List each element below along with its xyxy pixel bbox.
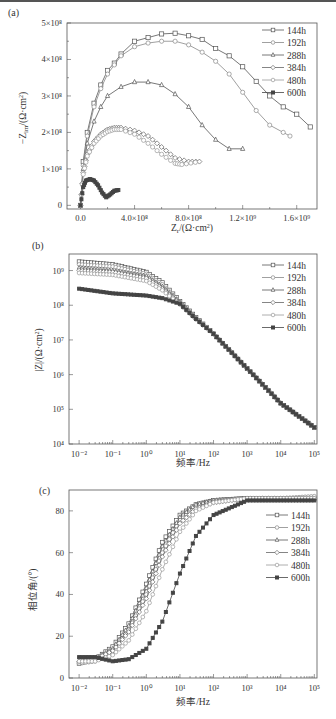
legend-entry: 192h xyxy=(287,273,306,283)
x-axis-label-a: Zr/(Ω·cm2) xyxy=(171,223,213,235)
bode-phase-plot: (c) 020406080 10⁻²10⁻¹10⁰10¹10²10³10⁴10⁵… xyxy=(0,470,336,719)
svg-text:10³: 10³ xyxy=(242,449,254,459)
svg-text:10⁸: 10⁸ xyxy=(53,300,65,310)
nyquist-plot: (a) 01×10⁸2×10⁸3×10⁸4×10⁸5×10⁸ 0.04.0×10… xyxy=(0,0,336,235)
panel-a-nyquist-chart: (a) 01×10⁸2×10⁸3×10⁸4×10⁸5×10⁸ 0.04.0×10… xyxy=(0,0,336,235)
series-144h xyxy=(78,31,312,207)
legend-entry: 384h xyxy=(287,298,306,308)
svg-text:10⁻²: 10⁻² xyxy=(71,449,88,459)
svg-text:8.0×10⁸: 8.0×10⁸ xyxy=(175,213,202,223)
series-192h xyxy=(77,494,316,665)
legend-entry: 288h xyxy=(291,536,310,546)
legend-a: 144h192h288h384h480h600h xyxy=(262,26,306,99)
x-axis-a: 0.04.0×10⁸8.0×10⁸1.2×10⁹1.6×10⁹ xyxy=(75,205,310,223)
series-group-a xyxy=(78,31,312,208)
legend-entry: 600h xyxy=(291,573,310,583)
svg-text:10⁶: 10⁶ xyxy=(53,370,65,380)
x-axis-label-b: 频率/Hz xyxy=(176,457,210,468)
panel-c-bode-phase-chart: (c) 020406080 10⁻²10⁻¹10⁰10¹10²10³10⁴10⁵… xyxy=(0,470,336,719)
svg-text:10⁰: 10⁰ xyxy=(140,683,153,693)
legend-entry: 480h xyxy=(287,76,306,86)
series-600h xyxy=(78,499,316,663)
svg-text:10⁷: 10⁷ xyxy=(53,335,65,345)
svg-text:2×10⁸: 2×10⁸ xyxy=(41,127,62,137)
svg-text:4×10⁸: 4×10⁸ xyxy=(41,54,62,64)
series-288h xyxy=(77,496,316,663)
legend-entry: 480h xyxy=(291,561,310,571)
legend-entry: 600h xyxy=(287,88,306,98)
svg-text:1.2×10⁹: 1.2×10⁹ xyxy=(229,213,256,223)
panel-label-a: (a) xyxy=(8,7,19,19)
svg-text:1.6×10⁹: 1.6×10⁹ xyxy=(283,213,310,223)
panel-b-bode-magnitude-chart: (b) 10⁴10⁵10⁶10⁷10⁸10⁹ 10⁻²10⁻¹10⁰10¹10²… xyxy=(0,235,336,470)
series-192h xyxy=(78,39,292,207)
legend-entry: 192h xyxy=(287,38,306,48)
svg-text:3×10⁸: 3×10⁸ xyxy=(41,91,62,101)
svg-text:0: 0 xyxy=(60,673,64,683)
series-384h xyxy=(77,496,317,664)
svg-text:80: 80 xyxy=(56,506,65,516)
legend-entry: 192h xyxy=(291,523,310,533)
legend-entry: 144h xyxy=(287,261,306,271)
x-axis-c: 10⁻²10⁻¹10⁰10¹10²10³10⁴10⁵ xyxy=(71,674,320,693)
svg-text:10⁴: 10⁴ xyxy=(53,439,65,449)
series-480h xyxy=(78,127,197,207)
legend-entry: 144h xyxy=(291,511,310,521)
svg-text:10⁹: 10⁹ xyxy=(53,266,65,276)
svg-text:10⁻¹: 10⁻¹ xyxy=(105,683,122,693)
svg-text:4.0×10⁸: 4.0×10⁸ xyxy=(121,213,148,223)
y-axis-b: 10⁴10⁵10⁶10⁷10⁸10⁹ xyxy=(53,266,73,449)
svg-text:10⁵: 10⁵ xyxy=(53,404,65,414)
panel-label-c: (c) xyxy=(39,485,50,497)
y-axis-label-b: |Z|/(Ω·cm2) xyxy=(34,328,45,371)
legend-entry: 288h xyxy=(287,51,306,61)
legend-b: 144h192h288h384h480h600h xyxy=(262,261,306,334)
plot-frame-a xyxy=(67,23,317,209)
y-axis-label-c: 相位角/(°) xyxy=(27,569,39,612)
svg-text:0: 0 xyxy=(58,200,62,210)
series-480h xyxy=(77,496,316,663)
legend-entry: 480h xyxy=(287,311,306,321)
svg-text:10⁰: 10⁰ xyxy=(140,449,153,459)
panel-label-b: (b) xyxy=(32,240,44,252)
x-axis-b: 10⁻²10⁻¹10⁰10¹10²10³10⁴10⁵ xyxy=(71,440,320,459)
bode-magnitude-plot: (b) 10⁴10⁵10⁶10⁷10⁸10⁹ 10⁻²10⁻¹10⁰10¹10²… xyxy=(0,235,336,470)
svg-text:60: 60 xyxy=(56,548,65,558)
series-600h xyxy=(79,178,120,207)
svg-text:0.0: 0.0 xyxy=(75,213,86,223)
legend-entry: 384h xyxy=(291,548,310,558)
y-axis-a: 01×10⁸2×10⁸3×10⁸4×10⁸5×10⁸ xyxy=(41,18,71,210)
svg-text:40: 40 xyxy=(56,589,65,599)
svg-text:10⁵: 10⁵ xyxy=(309,449,321,459)
legend-entry: 384h xyxy=(287,63,306,73)
series-600h xyxy=(78,287,316,429)
svg-text:10¹: 10¹ xyxy=(174,683,186,693)
svg-text:20: 20 xyxy=(56,631,65,641)
svg-text:1×10⁸: 1×10⁸ xyxy=(41,164,62,174)
svg-text:10⁻¹: 10⁻¹ xyxy=(105,449,122,459)
svg-text:10⁻²: 10⁻² xyxy=(71,683,88,693)
svg-text:10⁵: 10⁵ xyxy=(309,683,321,693)
y-axis-label-a: −Zim/(Ω·cm2) xyxy=(18,92,30,144)
series-group-c xyxy=(77,494,317,665)
legend-entry: 144h xyxy=(287,26,306,36)
y-axis-c: 020406080 xyxy=(56,506,74,683)
plot-frame-b xyxy=(69,254,317,444)
svg-text:10⁴: 10⁴ xyxy=(275,683,287,693)
legend-entry: 600h xyxy=(287,323,306,333)
series-288h xyxy=(78,79,244,206)
series-144h xyxy=(77,496,316,665)
series-group-b xyxy=(77,260,317,430)
svg-text:10²: 10² xyxy=(208,683,220,693)
svg-text:10³: 10³ xyxy=(242,683,254,693)
svg-text:10⁴: 10⁴ xyxy=(275,449,287,459)
legend-c: 144h192h288h384h480h600h xyxy=(266,511,310,584)
x-axis-label-c: 频率/Hz xyxy=(176,696,210,707)
svg-text:5×10⁸: 5×10⁸ xyxy=(41,18,62,28)
legend-entry: 288h xyxy=(287,286,306,296)
